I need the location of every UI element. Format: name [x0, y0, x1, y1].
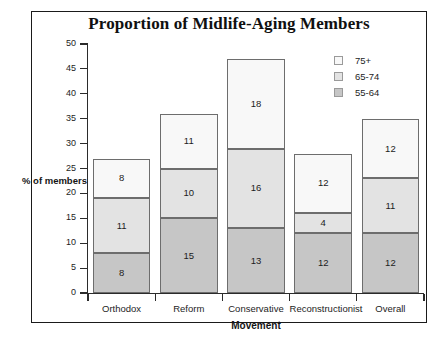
bar-segment: 11 [362, 178, 419, 233]
x-tick [222, 294, 223, 301]
bar-segment: 16 [227, 149, 284, 229]
y-tick-label: 45 [48, 64, 76, 73]
y-tick-25 [80, 168, 87, 169]
x-category-label: Conservative [222, 303, 289, 314]
x-tick [155, 294, 156, 301]
legend-label: 75+ [355, 55, 371, 66]
bar-segment: 12 [362, 119, 419, 179]
legend-swatch-icon [334, 56, 343, 65]
y-tick-45 [80, 68, 87, 69]
legend-item: 75+ [334, 52, 420, 68]
bar-segment: 13 [227, 228, 284, 293]
y-tick-40 [80, 93, 87, 94]
chart-figure: Proportion of Midlife-Aging Members % of… [0, 0, 439, 343]
x-tick [87, 294, 88, 301]
y-tick-20 [80, 193, 87, 194]
y-tick-label: 0 [48, 288, 76, 297]
chart-legend: 75+65-7455-64 [334, 52, 420, 100]
y-tick-30 [80, 143, 87, 144]
bar-conservative: 131618 [227, 44, 284, 293]
y-tick-35 [80, 118, 87, 119]
bar-orthodox: 8118 [93, 44, 150, 293]
bar-segment-value: 11 [117, 221, 127, 231]
bar-segment: 8 [93, 159, 150, 199]
bar-segment: 4 [294, 213, 351, 233]
y-tick-label: 30 [48, 139, 76, 148]
y-tick-label: 50 [48, 39, 76, 48]
bar-segment-value: 16 [251, 183, 262, 193]
bar-segment-value: 12 [318, 178, 329, 188]
bar-segment: 12 [294, 233, 351, 293]
bar-segment: 10 [160, 169, 217, 219]
bar-segment: 18 [227, 59, 284, 149]
legend-label: 55-64 [355, 87, 379, 98]
y-tick-label: 20 [48, 188, 76, 197]
x-tick [356, 294, 357, 301]
y-tick-label: 25 [48, 164, 76, 173]
y-tick-10 [80, 243, 87, 244]
bar-segment-value: 12 [385, 144, 396, 154]
bar-segment-value: 13 [251, 256, 262, 266]
y-tick-label: 10 [48, 238, 76, 247]
bar-segment-value: 8 [119, 173, 124, 183]
bar-segment-value: 15 [184, 251, 195, 261]
y-tick-0 [80, 292, 87, 293]
y-axis-title: % of members [22, 175, 84, 186]
bar-segment: 11 [160, 114, 217, 169]
y-tick-label: 15 [48, 213, 76, 222]
bar-reform: 151011 [160, 44, 217, 293]
bar-segment: 15 [160, 218, 217, 293]
bar-segment-value: 4 [321, 218, 326, 228]
y-tick-label: 5 [48, 263, 76, 272]
chart-title: Proportion of Midlife-Aging Members [31, 14, 427, 34]
x-axis-line [87, 293, 424, 294]
x-category-label: Reform [155, 303, 222, 314]
bar-segment-value: 10 [184, 188, 195, 198]
bar-segment-value: 8 [119, 268, 124, 278]
bar-segment: 12 [362, 233, 419, 293]
legend-item: 65-74 [334, 68, 420, 84]
x-category-label: Reconstructionist [290, 303, 357, 314]
x-category-label: Overall [357, 303, 424, 314]
bar-segment-value: 11 [385, 201, 395, 211]
x-tick [423, 294, 424, 301]
x-category-label: Orthodox [88, 303, 155, 314]
legend-swatch-icon [334, 72, 343, 81]
bar-segment: 11 [93, 198, 150, 253]
legend-item: 55-64 [334, 84, 420, 100]
legend-label: 65-74 [355, 71, 379, 82]
y-tick-label: 40 [48, 89, 76, 98]
y-tick-5 [80, 268, 87, 269]
bar-segment-value: 11 [184, 136, 194, 146]
bar-segment: 12 [294, 154, 351, 214]
bar-segment: 8 [93, 253, 150, 293]
bar-segment-value: 12 [385, 258, 396, 268]
legend-swatch-icon [334, 88, 343, 97]
bar-segment-value: 18 [251, 99, 262, 109]
x-tick [289, 294, 290, 301]
y-tick-15 [80, 218, 87, 219]
x-axis-title: Movement [88, 320, 424, 331]
bar-segment-value: 12 [318, 258, 329, 268]
y-tick-50 [80, 43, 87, 44]
y-tick-label: 35 [48, 114, 76, 123]
